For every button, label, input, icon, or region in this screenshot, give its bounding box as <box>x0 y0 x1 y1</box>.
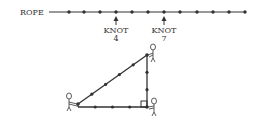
rope-knot-11 <box>227 10 230 13</box>
rope-label: ROPE <box>20 8 44 17</box>
rope-knot-10 <box>211 10 214 13</box>
rope-knot-6 <box>146 10 149 13</box>
right-triangle <box>76 53 149 109</box>
knot-marker-7: KNOT 7 <box>152 16 178 43</box>
rope-knot-3 <box>98 10 101 13</box>
rope-knot-8 <box>178 10 181 13</box>
knot-marker-4: KNOT 4 <box>104 16 130 43</box>
rope-knot-9 <box>195 10 198 13</box>
rope-knot-1 <box>67 10 70 13</box>
rope-triangle-diagram: ROPE KNOT 4 KNOT 7 <box>0 0 259 131</box>
knot-number: 4 <box>113 34 118 43</box>
person-left-icon <box>67 93 78 111</box>
rope-knot-4 <box>114 10 117 13</box>
rope-knot-12 <box>243 10 246 13</box>
person-top-icon <box>148 44 156 62</box>
arrow-head-icon <box>162 16 167 21</box>
arrow-head-icon <box>114 16 119 21</box>
knot-number: 7 <box>161 34 166 43</box>
rope-knot-7 <box>162 10 165 13</box>
hypotenuse <box>78 55 147 104</box>
rope-knot-2 <box>82 10 85 13</box>
person-right-icon <box>148 98 157 116</box>
rope-knot-5 <box>130 10 133 13</box>
